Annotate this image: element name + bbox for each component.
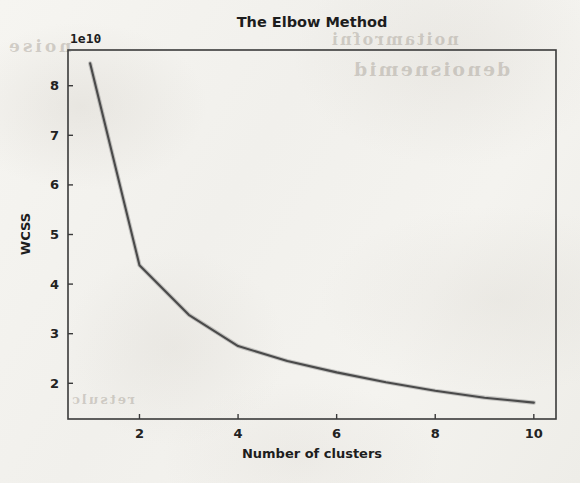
plot-area-frame xyxy=(68,50,556,419)
wcss-series-halo xyxy=(90,63,534,402)
chart-title: The Elbow Method xyxy=(237,14,388,30)
elbow-method-chart: The Elbow Method 1e10 2345678 246810 Num… xyxy=(0,0,580,483)
x-tick-label: 4 xyxy=(234,426,243,441)
y-tick-label: 5 xyxy=(50,227,59,242)
y-tick-label: 8 xyxy=(50,78,59,93)
figure-canvas: noise noitamrofni denoisnemid retsulc Th… xyxy=(0,0,580,483)
x-tick-label: 6 xyxy=(332,426,341,441)
x-tick-label: 2 xyxy=(135,426,144,441)
y-axis-offset-label: 1e10 xyxy=(70,31,101,46)
y-tick-label: 2 xyxy=(50,376,59,391)
y-tick-label: 4 xyxy=(50,277,59,292)
x-axis-ticks: 246810 xyxy=(135,414,543,441)
y-tick-label: 3 xyxy=(50,326,59,341)
y-tick-label: 6 xyxy=(50,177,59,192)
x-tick-label: 8 xyxy=(431,426,440,441)
x-axis-title: Number of clusters xyxy=(242,446,382,461)
x-tick-label: 10 xyxy=(525,426,543,441)
y-tick-label: 7 xyxy=(50,128,59,143)
y-axis-title: WCSS xyxy=(18,213,33,255)
wcss-series-line xyxy=(90,63,534,402)
y-axis-ticks: 2345678 xyxy=(50,78,73,391)
